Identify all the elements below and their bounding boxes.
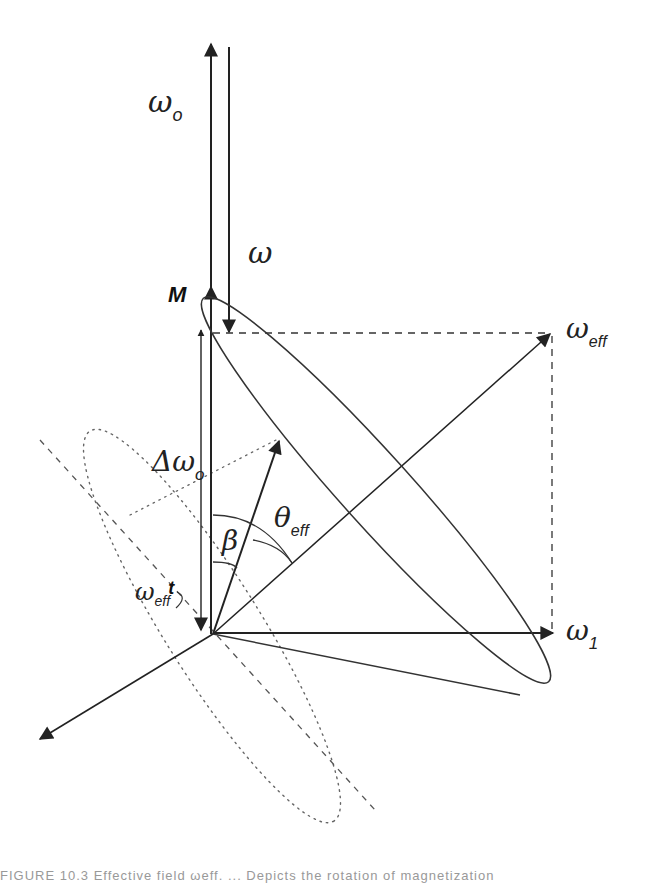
- label-delta-omega-o: Δωo: [151, 445, 205, 484]
- theta-eff-arc-inner: [253, 540, 292, 563]
- beta-arc: [213, 562, 237, 568]
- dotted-precession-ellipse: [40, 406, 375, 847]
- label-beta: β: [221, 524, 238, 557]
- cone-edge-lower: [213, 634, 520, 695]
- precession-cone: [177, 275, 574, 705]
- label-omega-o: ωo: [148, 84, 182, 125]
- label-theta-eff: θeff: [274, 501, 310, 539]
- effective-field-diagram: ωo ω M ωeff Δωo θeff β ωefft ω1: [0, 0, 645, 886]
- label-omega-eff-t: ωefft: [135, 578, 175, 609]
- third-axis: [40, 634, 213, 739]
- label-M: M: [168, 282, 187, 307]
- label-omega: ω: [248, 235, 272, 270]
- label-omega-eff: ωeff: [566, 312, 608, 350]
- dashed-ellipse-axis: [40, 440, 375, 810]
- label-omega-1: ω1: [566, 614, 598, 653]
- figure-caption: FIGURE 10.3 Effective field ωeff. ... De…: [0, 868, 645, 886]
